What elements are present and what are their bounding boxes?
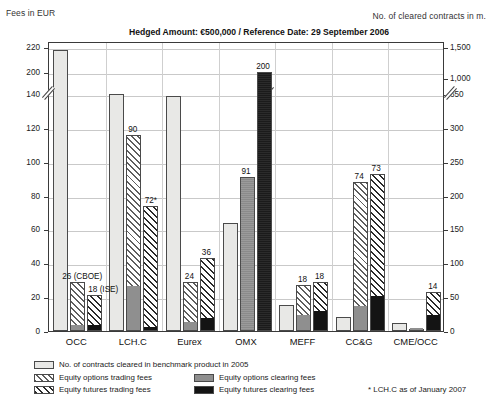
gridline [49,74,443,75]
segment-futures-clearing [201,318,214,330]
y-axis-tick-label: 100 [10,158,40,167]
category-label: Eurex [161,336,218,347]
y2-axis-tick-label: 150 [450,225,490,234]
bar-value-label: 73 [368,164,384,173]
y2-axis-tick-label: 300 [450,124,490,133]
y2-axis-tick-mark [444,197,448,198]
group-separator [275,43,276,331]
segment-futures-trading [314,283,327,313]
y-axis-tick-label: 140 [10,90,40,99]
bar-value-label: 90 [125,125,141,134]
segment-options-trading [71,283,84,327]
y-axis-tick-mark [44,298,48,299]
y-axis-tick-label: 40 [10,259,40,268]
legend-swatch [194,374,214,382]
y2-axis-tick-mark [444,332,448,333]
bar-value-label: 91 [238,167,254,176]
group-separator [219,43,220,331]
y-axis-tick-label: 220 [10,43,40,52]
bar-value-label: 74 [351,172,367,181]
y2-axis-tick-label: 1,500 [450,43,490,52]
bar [166,96,181,331]
y2-axis-tick-label: 200 [450,192,490,201]
gridline [49,96,443,97]
category-label: OCC [48,336,105,347]
bar [240,177,255,331]
bar [87,295,102,331]
segment-futures-trading [144,207,157,329]
left-axis-caption: Fees in EUR [6,8,55,18]
legend-swatch [34,386,54,394]
y-axis-tick-mark [44,73,48,74]
bar [257,72,272,331]
chart-page: Fees in EUR No. of cleared contracts in … [0,0,492,406]
segment-futures-trading [88,296,101,326]
bar [392,323,407,331]
segment-futures-trading [201,259,214,320]
y-axis-tick-mark [44,48,48,49]
segment-options-trading [297,286,310,316]
bar [143,206,158,331]
bar [409,329,424,331]
segment-futures-clearing [427,315,440,330]
segment-contracts [280,306,293,330]
category-label: LCH.C [105,336,162,347]
bar [279,305,294,331]
bar-value-label: 26 (CBOE) [59,272,105,281]
segment-futures-trading [427,293,440,317]
y-axis-tick-label: 20 [10,293,40,302]
segment-options-clearing [354,306,367,330]
bar [126,135,141,331]
y-axis-tick-label: 120 [10,124,40,133]
bar [200,258,215,331]
right-axis-caption: No. of cleared contracts in m. [372,11,486,21]
bar-value-label: 14 [425,282,441,291]
legend-label: Equity options trading fees [59,373,152,383]
bar [183,282,198,331]
y2-axis-tick-label: 0 [450,327,490,336]
category-label: CME/OCC [387,336,444,347]
y2-axis-tick-label: 50 [450,293,490,302]
y-axis-tick-mark [44,129,48,130]
legend-label: Equity options clearing fees [219,373,316,383]
bar [296,285,311,331]
segment-contracts [167,97,180,330]
bar [223,223,238,331]
bar [370,174,385,331]
gridline [49,49,443,50]
segment-options-clearing [241,178,254,330]
bar-value-label: 18 (ISE) [83,285,123,294]
y2-axis-tick-mark [444,230,448,231]
group-separator [388,43,389,331]
bar-value-label: 36 [198,248,214,257]
legend-label: Equity futures trading fees [59,385,151,395]
segment-futures-clearing [88,325,101,330]
y-axis-tick-label: 80 [10,192,40,201]
y-axis-tick-mark [44,230,48,231]
bar-value-label: 24 [181,272,197,281]
segment-futures-clearing [258,73,271,330]
segment-options-trading [354,183,367,308]
y2-axis-tick-mark [444,48,448,49]
segment-options-trading [127,136,140,288]
segment-contracts [337,318,350,330]
segment-futures-clearing [314,311,327,330]
category-label: OMX [218,336,275,347]
y-axis-tick-mark [44,163,48,164]
segment-options-clearing [410,328,423,330]
segment-options-clearing [127,286,140,330]
gridline [49,130,443,131]
group-separator [162,43,163,331]
y2-axis-tick-label: 1,000 [450,74,490,83]
y-axis-tick-label: 200 [10,68,40,77]
legend-swatch [34,361,54,369]
segment-options-trading [184,283,197,324]
segment-contracts [54,51,67,330]
footnote: * LCH.C as of January 2007 [368,385,466,394]
bar-value-label: 200 [253,62,273,71]
bar [313,282,328,331]
segment-contracts [393,324,406,330]
y2-axis-tick-mark [444,129,448,130]
y2-axis-tick-label: 100 [450,259,490,268]
segment-futures-clearing [144,327,157,330]
